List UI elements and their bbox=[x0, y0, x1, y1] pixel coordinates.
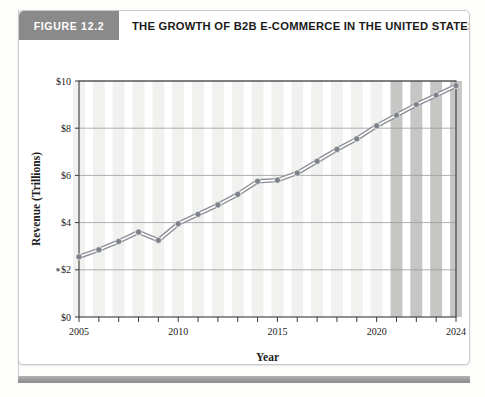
year-bar bbox=[271, 81, 283, 317]
year-bar bbox=[212, 81, 224, 317]
data-point bbox=[96, 247, 102, 253]
y-tick-label: $0 bbox=[61, 312, 71, 323]
year-bar bbox=[311, 81, 323, 317]
data-point bbox=[175, 221, 181, 227]
year-bar bbox=[291, 81, 303, 317]
figure-title: THE GROWTH OF B2B E-COMMERCE IN THE UNIT… bbox=[119, 11, 469, 40]
data-point bbox=[116, 238, 122, 244]
data-point bbox=[334, 146, 340, 152]
figure-card: FIGURE 12.2 THE GROWTH OF B2B E-COMMERCE… bbox=[18, 10, 470, 365]
data-point bbox=[314, 158, 320, 164]
y-tick-label: $8 bbox=[61, 123, 71, 134]
chart-body: $0$2$4$6$8$1020052010201520202024YearRev… bbox=[19, 40, 469, 364]
y-axis-title: Revenue (Trillions) bbox=[30, 152, 43, 246]
x-tick-label: 2005 bbox=[69, 326, 89, 337]
data-point bbox=[135, 229, 141, 235]
year-bar bbox=[172, 81, 184, 317]
data-point bbox=[374, 123, 380, 129]
data-point bbox=[453, 83, 459, 89]
data-point bbox=[354, 136, 360, 142]
bar-backdrop-group bbox=[73, 81, 462, 317]
year-bar bbox=[93, 81, 105, 317]
x-axis-group: 20052010201520202024 bbox=[69, 317, 466, 337]
y-tick-label: $10 bbox=[56, 76, 71, 87]
year-bar bbox=[331, 81, 343, 317]
y-tick-label: $2 bbox=[61, 264, 71, 275]
x-axis-title: Year bbox=[256, 351, 279, 363]
stray-bullet-mark bbox=[56, 268, 60, 272]
projected-year-bar bbox=[410, 81, 422, 317]
data-point bbox=[215, 202, 221, 208]
data-point bbox=[76, 254, 82, 260]
data-point bbox=[274, 177, 280, 183]
x-tick-label: 2010 bbox=[168, 326, 188, 337]
year-bar bbox=[152, 81, 164, 317]
year-bar bbox=[192, 81, 204, 317]
year-bar bbox=[371, 81, 383, 317]
year-bar bbox=[252, 81, 264, 317]
data-point bbox=[413, 102, 419, 108]
figure-number-badge: FIGURE 12.2 bbox=[19, 11, 119, 40]
year-bar bbox=[113, 81, 125, 317]
figure-header: FIGURE 12.2 THE GROWTH OF B2B E-COMMERCE… bbox=[19, 11, 469, 41]
line-chart: $0$2$4$6$8$1020052010201520202024YearRev… bbox=[19, 40, 469, 364]
year-bar bbox=[133, 81, 145, 317]
x-tick-label: 2020 bbox=[367, 326, 387, 337]
data-point bbox=[195, 211, 201, 217]
data-point bbox=[155, 237, 161, 243]
figure-footer-bar bbox=[18, 376, 470, 383]
data-point bbox=[433, 92, 439, 98]
y-tick-label: $4 bbox=[61, 217, 71, 228]
data-point bbox=[235, 191, 241, 197]
data-point bbox=[393, 112, 399, 118]
x-tick-label: 2015 bbox=[267, 326, 287, 337]
data-point bbox=[254, 178, 260, 184]
y-tick-label: $6 bbox=[61, 170, 71, 181]
figure-page: FIGURE 12.2 THE GROWTH OF B2B E-COMMERCE… bbox=[0, 0, 485, 397]
data-point bbox=[294, 170, 300, 176]
x-tick-label: 2024 bbox=[446, 326, 466, 337]
year-bar bbox=[351, 81, 363, 317]
projected-year-bar bbox=[430, 81, 442, 317]
